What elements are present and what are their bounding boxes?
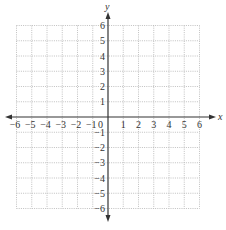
x-axis-right-arrow-icon (209, 115, 216, 120)
x-tick-label: 1 (121, 119, 126, 130)
x-tick-label: 2 (136, 119, 141, 130)
x-tick-label: −5 (25, 119, 36, 130)
x-tick-label: 4 (167, 119, 172, 130)
x-tick-label: −3 (55, 119, 66, 130)
x-tick-label: 3 (151, 119, 156, 130)
y-axis-label: y (104, 1, 110, 12)
x-tick-label: 6 (197, 119, 202, 130)
y-tick-label: 3 (100, 66, 105, 77)
y-tick-label: 2 (100, 81, 105, 92)
y-tick-label: 1 (100, 96, 105, 107)
x-tick-label: −6 (10, 119, 21, 130)
y-axis-down-arrow-icon (106, 215, 111, 222)
coordinate-plane: x y 0 −6−5−4−3−2−1123456 654321−1−2−3−4−… (0, 0, 226, 230)
y-tick-label: 4 (100, 51, 105, 62)
y-axis-up-arrow-icon (106, 12, 111, 19)
y-tick-label: 6 (100, 20, 105, 31)
x-tick-labels: −6−5−4−3−2−1123456 (10, 119, 202, 130)
x-axis-label: x (217, 111, 223, 122)
x-tick-label: −2 (71, 119, 82, 130)
y-tick-label: −4 (94, 173, 105, 184)
y-tick-label: −6 (94, 203, 105, 214)
y-tick-label: 5 (100, 35, 105, 46)
x-tick-label: −4 (40, 119, 51, 130)
y-tick-label: −1 (94, 127, 105, 138)
y-tick-label: −5 (94, 188, 105, 199)
y-tick-label: −3 (94, 157, 105, 168)
x-tick-label: 5 (182, 119, 187, 130)
y-tick-label: −2 (94, 142, 105, 153)
